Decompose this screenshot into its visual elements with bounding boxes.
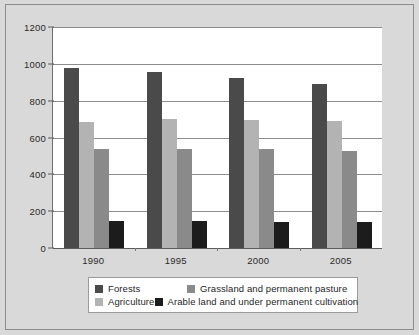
x-tick-mark-2 [217,248,218,251]
x-tick-mark-3 [300,248,301,251]
y-tick-mark-0 [48,248,54,249]
bar-2000-grassland [259,149,274,248]
y-tick-label-400: 400 [30,169,46,180]
plot-area [52,27,382,248]
y-tick-mark-200 [48,211,54,212]
y-axis: 020040060080010001200 [8,27,46,248]
bar-group-1995 [136,28,219,248]
bar-chart-figure: 020040060080010001200 1990199520002005 F… [0,0,419,335]
bar-2005-arable [357,222,372,248]
bar-1990-arable [109,221,124,248]
y-tick-mark-1200 [48,27,54,28]
legend-swatch-icon [187,285,195,293]
y-tick-label-600: 600 [30,132,46,143]
legend-swatch-icon [155,298,163,306]
bar-group-2000 [218,28,301,248]
y-tick-mark-800 [48,100,54,101]
legend-label: Forests [108,283,140,294]
bar-2005-agriculture [327,121,342,248]
x-tick-label-1990: 1990 [82,255,104,266]
bar-group-2005 [301,28,384,248]
legend-label: Agriculture [108,296,155,307]
bar-2000-agriculture [244,120,259,248]
legend-row-1: ForestsGrassland and permanent pasture [95,282,351,295]
bar-1990-agriculture [79,122,94,248]
y-tick-label-200: 200 [30,206,46,217]
x-tick-label-2000: 2000 [247,255,269,266]
x-tick-label-2005: 2005 [330,255,352,266]
bar-2000-forests [229,78,244,248]
y-tick-mark-1000 [48,63,54,64]
legend-item-arable[interactable]: Arable land and under permanent cultivat… [155,296,359,307]
bar-2000-arable [274,222,289,248]
y-tick-mark-400 [48,174,54,175]
y-tick-label-1200: 1200 [24,22,46,33]
bar-1990-forests [64,68,79,248]
y-tick-mark-600 [48,137,54,138]
bar-2005-grassland [342,151,357,248]
legend-label: Arable land and under permanent cultivat… [168,296,359,307]
bar-1995-agriculture [162,119,177,248]
bar-1990-grassland [94,149,109,248]
bar-group-1990 [53,28,136,248]
y-tick-label-800: 800 [30,95,46,106]
bar-1995-grassland [177,149,192,248]
legend-item-grassland[interactable]: Grassland and permanent pasture [187,283,347,294]
legend-row-2: AgricultureArable land and under permane… [95,295,351,308]
legend-item-agriculture[interactable]: Agriculture [95,296,155,307]
bar-1995-arable [192,221,207,248]
legend-swatch-icon [95,285,103,293]
chart-legend: ForestsGrassland and permanent pastureAg… [88,277,358,313]
x-axis: 1990199520002005 [52,251,382,267]
bar-1995-forests [147,72,162,248]
legend-label: Grassland and permanent pasture [200,283,347,294]
legend-swatch-icon [95,298,103,306]
y-tick-label-1000: 1000 [24,58,46,69]
x-tick-label-1995: 1995 [165,255,187,266]
y-tick-label-0: 0 [41,243,46,254]
legend-item-forests[interactable]: Forests [95,283,187,294]
x-tick-mark-1 [135,248,136,251]
bar-2005-forests [312,84,327,248]
